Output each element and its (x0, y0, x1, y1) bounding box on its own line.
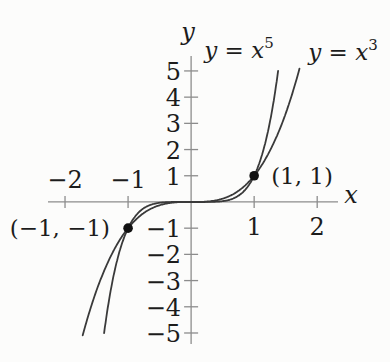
y-tick-label: −3 (146, 268, 181, 296)
point-label: (1, 1) (271, 163, 333, 189)
y-tick-label: 1 (166, 163, 181, 191)
x-tick-label: −1 (110, 166, 145, 194)
x-axis-label: x (344, 181, 358, 209)
curve-label-x-power-5: y = x5 (203, 34, 273, 63)
y-tick-label: 4 (166, 84, 181, 112)
y-tick-label: 3 (166, 110, 181, 138)
x-tick-label: −2 (47, 166, 82, 194)
y-tick-label: 5 (166, 58, 181, 86)
curve-label-x-power-3: y = x3 (307, 36, 377, 65)
y-tick-label: −2 (146, 241, 181, 269)
y-tick-label: −4 (146, 294, 181, 322)
x-tick-label: 1 (247, 213, 262, 241)
point-marker (123, 223, 133, 233)
y-tick-label: −1 (146, 215, 181, 243)
y-tick-label: 2 (166, 137, 181, 165)
x-tick-label: 2 (310, 213, 325, 241)
function-graph-figure: −2−112−5−4−3−2−112345yxy = x5y = x3(1, 1… (0, 0, 390, 362)
point-label: (−1, −1) (10, 215, 110, 241)
graph-canvas: −2−112−5−4−3−2−112345yxy = x5y = x3(1, 1… (0, 0, 390, 362)
y-tick-label: −5 (146, 320, 181, 348)
y-axis-label: y (180, 18, 195, 46)
point-marker (249, 171, 259, 181)
